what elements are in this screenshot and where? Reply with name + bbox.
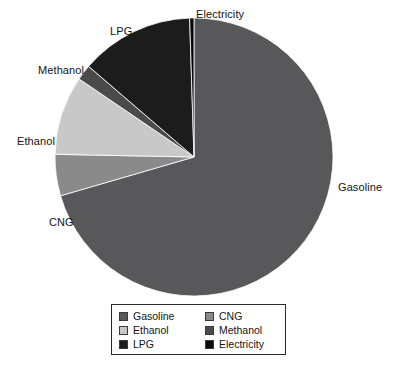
callout-label-methanol: Methanol [38, 64, 84, 76]
legend-entry-ethanol[interactable]: Ethanol [119, 325, 205, 336]
callout-label-ethanol: Ethanol [17, 135, 55, 147]
legend-label-ethanol: Ethanol [133, 325, 169, 336]
legend-swatch-lpg [119, 340, 128, 349]
legend-swatch-cng [205, 312, 214, 321]
legend-swatch-electricity [205, 340, 214, 349]
legend-label-gasoline: Gasoline [133, 311, 174, 322]
legend-swatch-ethanol [119, 326, 128, 335]
callout-label-electricity: Electricity [196, 8, 244, 20]
legend-label-lpg: LPG [133, 339, 154, 350]
legend-entry-electricity[interactable]: Electricity [205, 339, 287, 350]
legend-label-cng: CNG [219, 311, 242, 322]
pie-plot-area [0, 0, 397, 300]
callout-label-gasoline: Gasoline [338, 181, 382, 193]
legend-swatch-methanol [205, 326, 214, 335]
legend-label-electricity: Electricity [219, 339, 264, 350]
pie-chart-figure: Electricity LPG Methanol Ethanol CNG Gas… [0, 0, 397, 372]
pie-slice-group [55, 18, 333, 296]
legend-grid: GasolineCNGEthanolMethanolLPGElectricity [119, 309, 279, 351]
callout-label-lpg: LPG [110, 25, 132, 37]
legend-entry-gasoline[interactable]: Gasoline [119, 311, 205, 322]
legend-entry-cng[interactable]: CNG [205, 311, 287, 322]
chart-legend: GasolineCNGEthanolMethanolLPGElectricity [111, 304, 286, 355]
callout-label-cng: CNG [49, 216, 74, 228]
legend-swatch-gasoline [119, 312, 128, 321]
legend-label-methanol: Methanol [219, 325, 262, 336]
legend-entry-methanol[interactable]: Methanol [205, 325, 287, 336]
legend-entry-lpg[interactable]: LPG [119, 339, 205, 350]
pie-svg [0, 0, 397, 300]
